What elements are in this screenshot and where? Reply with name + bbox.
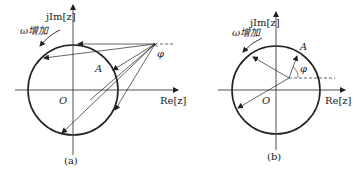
angle-label-b: φ: [300, 63, 307, 74]
point-label-b: A: [299, 41, 307, 52]
caption-b: (b): [267, 151, 281, 162]
x-axis-label-b: Re[z]: [325, 95, 352, 106]
diagram-canvas: × jIm[z] ω增加 A φ O Re[z] (a) jIm[z] ω增加 …: [0, 0, 360, 173]
angle-label-a: φ: [157, 48, 164, 59]
vectors-a: [44, 44, 155, 133]
caption-a: (a): [64, 155, 78, 166]
angle-arc-b: [293, 67, 298, 78]
origin-label-b: O: [262, 95, 270, 106]
panel-b: jIm[z] ω增加 A φ O Re[z] (b): [218, 12, 352, 162]
panel-a: × jIm[z] ω增加 A φ O Re[z] (a): [15, 5, 187, 166]
y-axis-label-a: jIm[z]: [45, 11, 76, 22]
origin-label-a: O: [59, 95, 67, 106]
rotation-label-b: ω增加: [232, 27, 261, 38]
x-axis-label-a: Re[z]: [160, 95, 187, 106]
rotation-label-a: ω增加: [20, 25, 49, 36]
point-label-a: A: [94, 63, 102, 74]
